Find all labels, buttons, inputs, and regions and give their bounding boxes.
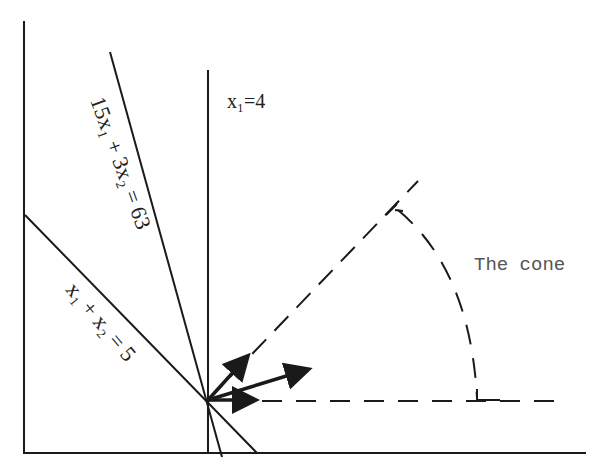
line-x1-x2-5 [25, 215, 257, 453]
cone-diagram: x₁=4 15x₁ + 3x₂ = 63 x₁ + x₂ = 5 The con… [0, 0, 602, 466]
label-the-cone: The cone [474, 254, 565, 276]
label-steep-line: 15x₁ + 3x₂ = 63 [85, 93, 156, 232]
label-x1-equals-4: x₁=4 [227, 90, 265, 112]
line-15x1-3x2-63 [110, 52, 222, 457]
cone-arc-tick-bottom [477, 389, 500, 400]
cone-arc [398, 210, 477, 398]
